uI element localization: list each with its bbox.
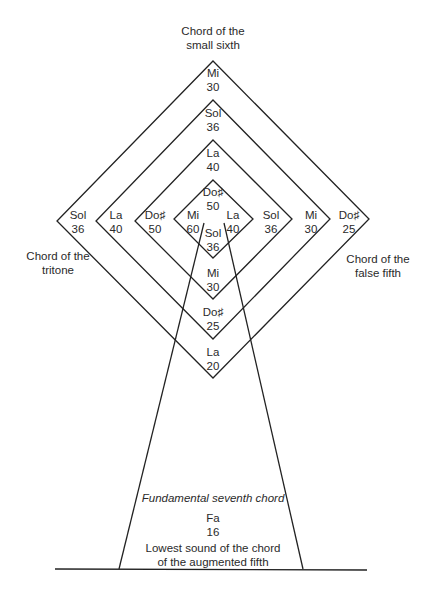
note-value: 40 (101, 222, 131, 236)
node-right-4: Do♯ 25 (334, 208, 364, 236)
caption-line: of the augmented fifth (113, 555, 313, 569)
note-name: La (193, 146, 233, 160)
note-name: Do♯ (193, 305, 233, 319)
caption-fundamental-seventh: Fundamental seventh chord (113, 491, 313, 505)
note-name: Mi (193, 66, 233, 80)
caption-line: small sixth (163, 38, 263, 52)
note-value: 16 (193, 525, 233, 539)
note-name: Sol (193, 226, 233, 240)
node-bottom-1: Sol 36 (193, 226, 233, 254)
note-value: 50 (140, 222, 170, 236)
node-bottom-3: Do♯ 25 (193, 305, 233, 333)
note-name: Sol (193, 106, 233, 120)
note-value: 36 (256, 222, 286, 236)
note-name: Fa (193, 511, 233, 525)
note-name: Sol (63, 208, 93, 222)
note-name: Sol (256, 208, 286, 222)
note-value: 30 (193, 80, 233, 94)
caption-line: Lowest sound of the chord (113, 541, 313, 555)
note-value: 36 (63, 222, 93, 236)
note-value: 20 (193, 359, 233, 373)
node-top-2: Sol 36 (193, 106, 233, 134)
baseline (55, 569, 367, 570)
base-node-fa: Fa 16 (193, 511, 233, 539)
node-top-1: Mi 30 (193, 66, 233, 94)
trapezoid-right-side (224, 223, 303, 569)
note-name: Mi (296, 208, 326, 222)
note-name: La (218, 208, 248, 222)
note-value: 36 (193, 240, 233, 254)
caption-false-fifth: Chord of the false fifth (338, 252, 418, 280)
note-value: 25 (334, 222, 364, 236)
caption-line: Chord of the (338, 252, 418, 266)
caption-small-sixth: Chord of the small sixth (163, 24, 263, 52)
caption-line: Chord of the (18, 249, 98, 263)
note-value: 36 (193, 120, 233, 134)
second-diamond (96, 100, 330, 339)
caption-line: tritone (18, 263, 98, 277)
caption-tritone: Chord of the tritone (18, 249, 98, 277)
node-left-1: Sol 36 (63, 208, 93, 236)
note-value: 25 (193, 319, 233, 333)
note-name: La (193, 345, 233, 359)
note-name: Mi (178, 208, 208, 222)
node-top-3: La 40 (193, 146, 233, 174)
note-name: Do♯ (193, 185, 233, 199)
node-right-2: Sol 36 (256, 208, 286, 236)
node-right-3: Mi 30 (296, 208, 326, 236)
node-bottom-4: La 20 (193, 345, 233, 373)
trapezoid-left-side (119, 223, 204, 569)
note-value: 30 (193, 280, 233, 294)
caption-line: Chord of the (163, 24, 263, 38)
note-name: Do♯ (140, 208, 170, 222)
node-left-2: La 40 (101, 208, 131, 236)
caption-line: false fifth (338, 266, 418, 280)
node-left-3: Do♯ 50 (140, 208, 170, 236)
note-name: Do♯ (334, 208, 364, 222)
note-name: La (101, 208, 131, 222)
caption-augmented-fifth: Lowest sound of the chord of the augment… (113, 541, 313, 569)
note-value: 40 (193, 160, 233, 174)
note-name: Mi (193, 266, 233, 280)
node-bottom-2: Mi 30 (193, 266, 233, 294)
note-value: 30 (296, 222, 326, 236)
